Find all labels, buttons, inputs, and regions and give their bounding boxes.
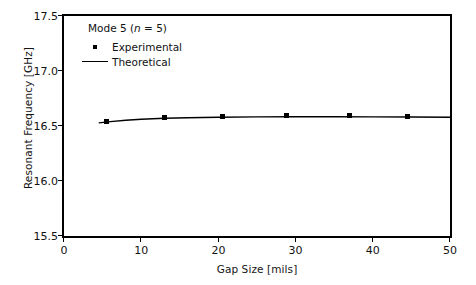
legend-annotation-mode: Mode 5 ( bbox=[88, 22, 134, 34]
y-tick-mark bbox=[58, 180, 64, 181]
y-tick-label: 16.0 bbox=[12, 175, 58, 188]
y-tick-label: 16.5 bbox=[12, 120, 58, 133]
data-point-marker bbox=[347, 113, 352, 118]
legend-item-experimental: Experimental bbox=[78, 39, 258, 54]
y-axis-label: Resonant Frequency [GHz] bbox=[22, 18, 34, 218]
x-tick-label: 20 bbox=[198, 244, 238, 257]
x-tick-mark bbox=[449, 236, 450, 242]
chart-figure: 15.516.016.517.017.5 Resonant Frequency … bbox=[0, 0, 476, 285]
legend-annotation-variable: n bbox=[134, 22, 141, 34]
x-tick-mark bbox=[140, 236, 141, 242]
y-tick-mark bbox=[58, 125, 64, 126]
x-tick-label: 0 bbox=[44, 244, 84, 257]
legend-annotation: Mode 5 (n = 5) bbox=[88, 22, 258, 34]
data-point-marker bbox=[162, 115, 167, 120]
x-tick-mark bbox=[372, 236, 373, 242]
x-tick-mark bbox=[218, 236, 219, 242]
x-tick-label: 10 bbox=[121, 244, 161, 257]
x-axis-label: Gap Size [mils] bbox=[62, 263, 452, 275]
legend-annotation-tail: = 5) bbox=[141, 22, 167, 34]
data-point-marker bbox=[284, 113, 289, 118]
data-point-marker bbox=[104, 119, 109, 124]
x-tick-label: 40 bbox=[353, 244, 393, 257]
y-tick-mark bbox=[58, 15, 64, 16]
data-point-marker bbox=[220, 114, 225, 119]
y-tick-label: 17.0 bbox=[12, 65, 58, 78]
line-marker-icon bbox=[78, 61, 112, 62]
chart-legend: Mode 5 (n = 5) Experimental Theoretical bbox=[78, 22, 258, 69]
legend-label-theoretical: Theoretical bbox=[112, 56, 171, 68]
legend-label-experimental: Experimental bbox=[112, 41, 182, 53]
legend-item-theoretical: Theoretical bbox=[78, 54, 258, 69]
y-tick-label: 17.5 bbox=[12, 10, 58, 23]
y-tick-mark bbox=[58, 70, 64, 71]
x-tick-label: 50 bbox=[430, 244, 470, 257]
square-marker-icon bbox=[78, 45, 112, 49]
x-tick-label: 30 bbox=[276, 244, 316, 257]
x-tick-mark bbox=[295, 236, 296, 242]
data-point-marker bbox=[405, 114, 410, 119]
x-tick-mark bbox=[63, 236, 64, 242]
y-tick-label: 15.5 bbox=[12, 230, 58, 243]
